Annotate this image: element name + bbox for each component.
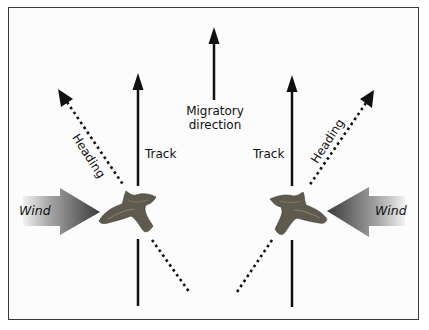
left-heading-arrow: [58, 89, 190, 293]
migratory-direction-label: Migratory direction: [183, 104, 247, 132]
migratory-direction-arrow: [209, 27, 220, 100]
left-track-arrow: [133, 73, 144, 306]
migration-diagram: [0, 0, 429, 330]
right-track-label: Track: [253, 147, 284, 161]
right-heading-arrow: [237, 90, 374, 292]
right-track-arrow: [287, 75, 298, 307]
right-wind-label: Wind: [375, 203, 407, 218]
migratory-label-line2: direction: [183, 118, 247, 132]
left-track-label: Track: [145, 147, 176, 161]
right-bird-icon: [270, 192, 327, 235]
left-wind-label: Wind: [19, 203, 51, 218]
left-bird-icon: [99, 191, 156, 232]
migratory-label-line1: Migratory: [183, 104, 247, 118]
